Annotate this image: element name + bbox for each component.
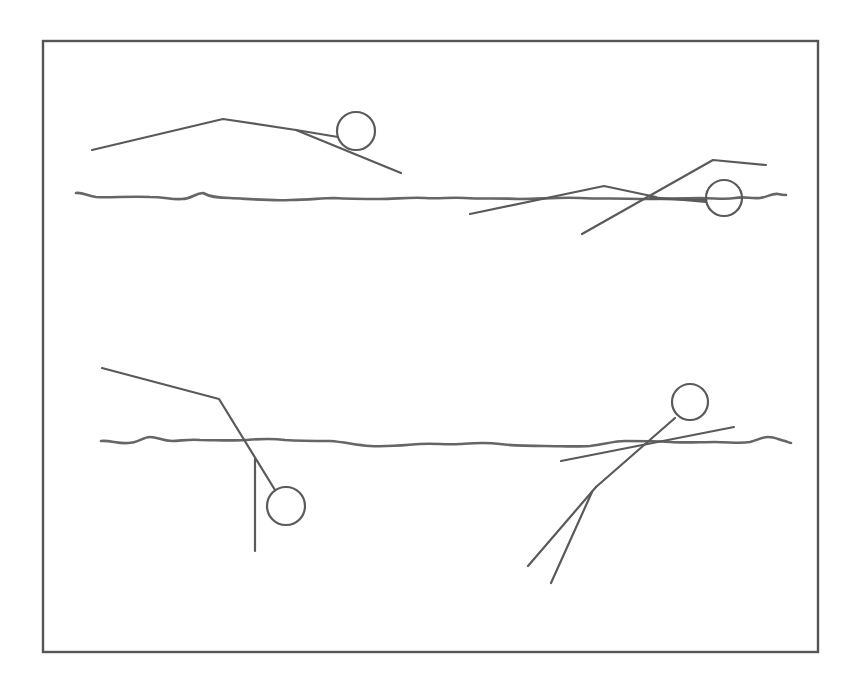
diagram-frame <box>43 41 818 652</box>
swimmer-bottom-right <box>528 384 734 583</box>
head-circle <box>337 112 375 150</box>
body-line <box>102 368 275 490</box>
head-circle <box>267 487 305 525</box>
swimmer-top-left <box>92 112 401 173</box>
legs-line <box>92 119 296 150</box>
legs-line <box>470 186 656 214</box>
swimmer-top-right <box>470 160 766 234</box>
swimmer-bottom-left <box>102 368 305 551</box>
head-circle <box>672 384 708 420</box>
leg-line-right <box>551 492 592 583</box>
arm-line <box>561 427 734 461</box>
water-surface-bottom <box>101 437 791 446</box>
leg-line-left <box>528 487 596 566</box>
diagram-canvas <box>0 0 855 685</box>
swimmer-diagram <box>0 0 855 685</box>
arm-line <box>296 130 401 173</box>
